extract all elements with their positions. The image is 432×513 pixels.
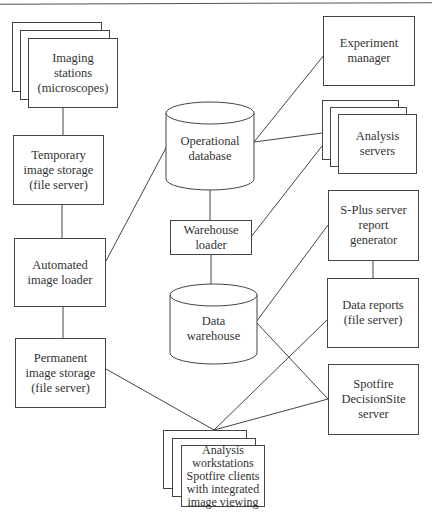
data-warehouse-label: Data warehouse (169, 314, 258, 344)
imaging-stations-node[interactable]: Imaging stations (microscopes) (28, 38, 118, 108)
analysis-servers-node[interactable]: Analysis servers (338, 114, 417, 174)
imaging-stations-label: Imaging stations (microscopes) (38, 51, 109, 96)
splus-server-label: S-Plus server report generator (340, 203, 406, 248)
analysis-workstations-node[interactable]: Analysis workstations Spotfire clients w… (181, 445, 265, 507)
warehouse-loader-label: Warehouse loader (183, 223, 238, 253)
analysis-workstations-label: Analysis workstations Spotfire clients w… (187, 444, 260, 509)
data-reports-node[interactable]: Data reports (file server) (327, 278, 419, 348)
temporary-storage-node[interactable]: Temporary image storage (file server) (13, 135, 104, 205)
experiment-manager-label: Experiment manager (340, 36, 398, 66)
automated-loader-label: Automated image loader (28, 258, 93, 288)
permanent-storage-label: Permanent image storage (file server) (26, 351, 96, 396)
edge-spotfire-workstations (214, 399, 328, 430)
splus-server-node[interactable]: S-Plus server report generator (328, 190, 419, 261)
operational-db-label: Operational database (165, 134, 255, 164)
edge-warehouse-splus (256, 225, 328, 322)
permanent-storage-node[interactable]: Permanent image storage (file server) (15, 338, 106, 408)
data-warehouse-node[interactable]: Data warehouse (169, 283, 258, 366)
edge-wloader-analysis-servers (251, 146, 322, 237)
spotfire-server-label: Spotfire DecisionSite server (342, 377, 406, 422)
spotfire-server-node[interactable]: Spotfire DecisionSite server (328, 364, 419, 435)
edge-opdb-analysis-servers (254, 133, 322, 142)
warehouse-loader-node[interactable]: Warehouse loader (170, 220, 252, 255)
automated-loader-node[interactable]: Automated image loader (14, 238, 106, 307)
edge-permanent-workstations (106, 369, 214, 430)
data-reports-label: Data reports (file server) (342, 298, 403, 328)
operational-db-node[interactable]: Operational database (165, 101, 255, 191)
analysis-servers-label: Analysis servers (356, 129, 400, 159)
edge-loader-opdb (106, 146, 167, 261)
temporary-storage-label: Temporary image storage (file server) (24, 148, 94, 193)
edge-warehouse-spotfire (256, 322, 328, 399)
edge-opdb-experiment (254, 55, 324, 142)
experiment-manager-node[interactable]: Experiment manager (323, 16, 415, 86)
